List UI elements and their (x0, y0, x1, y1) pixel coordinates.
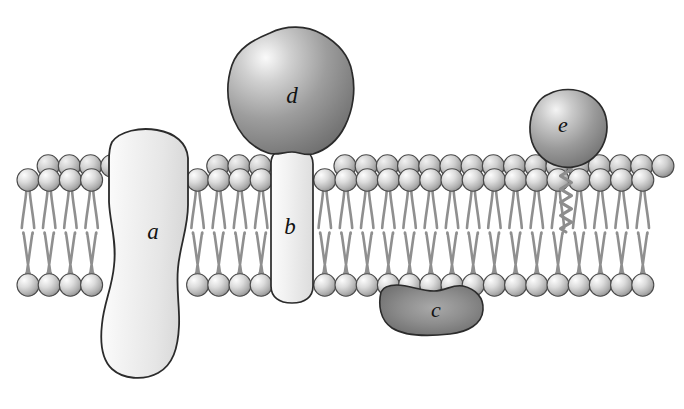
protein-b[interactable]: b (271, 148, 313, 303)
phospholipid-head (335, 169, 357, 191)
protein-d-label: d (286, 83, 298, 108)
protein-d[interactable]: d (228, 27, 354, 154)
phospholipid-head (17, 274, 39, 296)
protein-c-label: c (431, 297, 441, 322)
phospholipid-head (187, 274, 209, 296)
membrane-diagram-svg: c b d e a (0, 0, 684, 409)
membrane-diagram-canvas: c b d e a (0, 0, 684, 409)
phospholipid-head (38, 274, 60, 296)
phospholipid-head (356, 169, 378, 191)
protein-e[interactable]: e (530, 90, 607, 168)
phospholipid-head (377, 169, 399, 191)
phospholipid-head (547, 274, 569, 296)
phospholipid-head (59, 169, 81, 191)
phospholipid-head (420, 169, 442, 191)
phospholipid-head (652, 155, 674, 177)
protein-e-body (530, 90, 607, 168)
phospholipid-head (229, 274, 251, 296)
phospholipid-head (208, 274, 230, 296)
phospholipid-head (526, 169, 548, 191)
phospholipid-head (483, 169, 505, 191)
phospholipid-head (356, 274, 378, 296)
phospholipid-head (611, 274, 633, 296)
phospholipid-head (81, 169, 103, 191)
phospholipid-head (250, 169, 272, 191)
phospholipid-head (589, 274, 611, 296)
phospholipid-head (399, 169, 421, 191)
phospholipid-head (250, 274, 272, 296)
phospholipid-head (229, 169, 251, 191)
protein-b-label: b (284, 214, 296, 239)
phospholipid-head (38, 169, 60, 191)
protein-a-label: a (147, 219, 159, 244)
phospholipid-head (589, 169, 611, 191)
phospholipid-head (632, 169, 654, 191)
phospholipid-head (187, 169, 209, 191)
phospholipid-head (505, 169, 527, 191)
phospholipid-head (462, 169, 484, 191)
phospholipid-head (526, 274, 548, 296)
phospholipid-head (335, 274, 357, 296)
phospholipid-head (81, 274, 103, 296)
phospholipid-head (505, 274, 527, 296)
phospholipid-head (568, 274, 590, 296)
phospholipid-head (483, 274, 505, 296)
phospholipid-head (314, 169, 336, 191)
phospholipid-head (632, 274, 654, 296)
protein-a[interactable]: a (101, 129, 188, 378)
protein-e-label: e (558, 112, 568, 137)
phospholipid-head (314, 274, 336, 296)
phospholipid-head (611, 169, 633, 191)
phospholipid-head (208, 169, 230, 191)
phospholipid-head (568, 169, 590, 191)
phospholipid-head (441, 169, 463, 191)
phospholipid-head (17, 169, 39, 191)
protein-c[interactable]: c (380, 285, 483, 335)
phospholipid-head (59, 274, 81, 296)
protein-a-body (101, 129, 188, 378)
